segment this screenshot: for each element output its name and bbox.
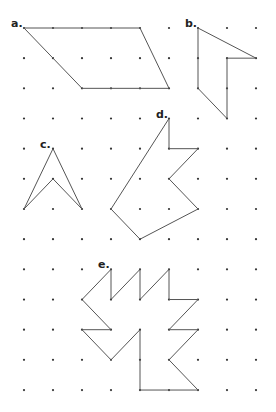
dot-grid-canvas: a.b.c.d.e. xyxy=(0,0,276,412)
shape-e xyxy=(82,269,198,390)
grid-dot xyxy=(255,87,257,89)
shape-label: c. xyxy=(40,138,51,151)
grid-dot xyxy=(255,178,257,180)
grid-dot xyxy=(139,208,141,210)
grid-dot xyxy=(255,148,257,150)
dot-grid-diagram: a.b.c.d.e. xyxy=(0,0,276,412)
grid-dot xyxy=(226,298,228,300)
grid-dot xyxy=(52,389,54,391)
grid-dot xyxy=(52,298,54,300)
grid-dot xyxy=(226,178,228,180)
grid-dot xyxy=(81,268,83,270)
grid-dot xyxy=(139,117,141,119)
grid-dot xyxy=(110,178,112,180)
grid-dot xyxy=(52,117,54,119)
grid-dot xyxy=(81,178,83,180)
grid-dot xyxy=(81,359,83,361)
shape-b xyxy=(198,28,256,119)
shape-d xyxy=(111,119,198,240)
grid-dot xyxy=(226,208,228,210)
grid-dot xyxy=(255,238,257,240)
grid-dot xyxy=(110,117,112,119)
grid-dot xyxy=(110,238,112,240)
grid-dot xyxy=(52,238,54,240)
grid-dot xyxy=(110,57,112,59)
grid-dot xyxy=(168,208,170,210)
grid-dot xyxy=(255,329,257,331)
grid-dot xyxy=(197,238,199,240)
grid-dot xyxy=(23,298,25,300)
grid-dot xyxy=(81,117,83,119)
grid-dot xyxy=(197,359,199,361)
grid-dot xyxy=(23,268,25,270)
grid-dot xyxy=(52,329,54,331)
grid-dot xyxy=(255,208,257,210)
shape-label: e. xyxy=(98,258,110,271)
grid-dot xyxy=(226,27,228,29)
grid-dot xyxy=(168,238,170,240)
grid-dot xyxy=(255,389,257,391)
grid-dot xyxy=(226,268,228,270)
grid-dot xyxy=(23,178,25,180)
grid-dot xyxy=(52,87,54,89)
grid-dot xyxy=(168,57,170,59)
grid-dot xyxy=(197,178,199,180)
grid-dot xyxy=(23,238,25,240)
grid-dot xyxy=(255,359,257,361)
grid-dot xyxy=(23,148,25,150)
grid-dot xyxy=(81,238,83,240)
grid-dot xyxy=(226,389,228,391)
grid-dot xyxy=(23,57,25,59)
grid-dot xyxy=(139,57,141,59)
grid-dot xyxy=(168,27,170,29)
shape-a xyxy=(24,28,169,88)
grid-dot xyxy=(197,268,199,270)
shape-label: d. xyxy=(156,108,168,121)
grid-dot xyxy=(226,148,228,150)
grid-dot xyxy=(81,57,83,59)
grid-dot xyxy=(197,117,199,119)
shape-label: a. xyxy=(11,17,23,30)
grid-dot xyxy=(81,148,83,150)
grid-dot xyxy=(226,238,228,240)
grid-dot xyxy=(23,117,25,119)
grid-dot xyxy=(52,359,54,361)
grid-dot xyxy=(255,268,257,270)
shape-c xyxy=(24,149,82,209)
grid-dot xyxy=(52,208,54,210)
grid-dot xyxy=(52,268,54,270)
grid-dot xyxy=(110,389,112,391)
grid-dot xyxy=(139,148,141,150)
grid-dot xyxy=(23,389,25,391)
grid-dot xyxy=(226,329,228,331)
grid-dot xyxy=(139,178,141,180)
grid-dot xyxy=(23,329,25,331)
grid-dot xyxy=(255,27,257,29)
grid-dot xyxy=(23,87,25,89)
grid-dot xyxy=(226,359,228,361)
grid-dot xyxy=(81,389,83,391)
grid-dot xyxy=(255,117,257,119)
grid-dot xyxy=(110,148,112,150)
grid-dot xyxy=(255,298,257,300)
shape-label: b. xyxy=(185,17,197,30)
grid-dot xyxy=(23,359,25,361)
